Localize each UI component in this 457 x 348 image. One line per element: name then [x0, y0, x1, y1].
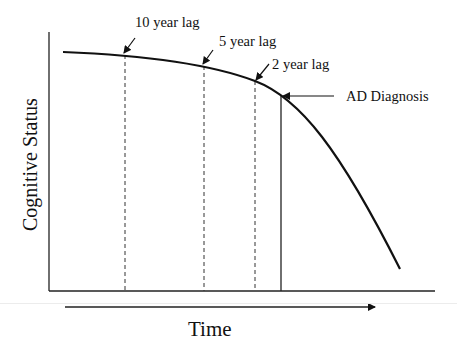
- decline-curve: [63, 52, 400, 269]
- lag-5-label: 5 year lag: [219, 34, 276, 49]
- lag-10-label: 10 year lag: [135, 15, 199, 30]
- lag-5-arrow: [203, 50, 213, 64]
- x-axis-label: Time: [188, 317, 232, 342]
- diagram-canvas: [0, 0, 457, 348]
- diagnosis-label: AD Diagnosis: [346, 89, 429, 104]
- lag-10-arrow: [124, 38, 135, 53]
- y-axis-label: Cognitive Status: [19, 98, 42, 231]
- faint-separator: [0, 303, 457, 304]
- lag-2-label: 2 year lag: [272, 57, 329, 72]
- lag-2-arrow: [256, 64, 269, 80]
